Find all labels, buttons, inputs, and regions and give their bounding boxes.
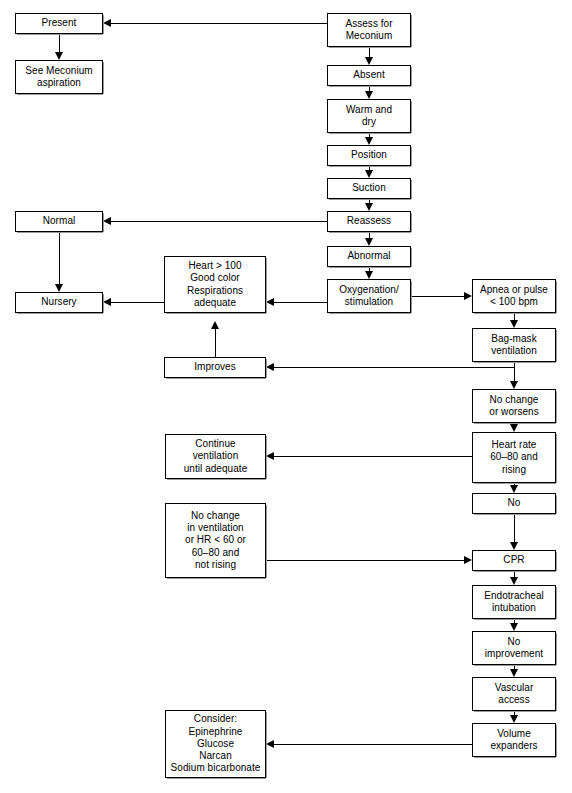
arrowhead-cpr-from-no-change: [464, 556, 472, 564]
node-no-change-or-worsens-label: No change or worsens: [489, 394, 538, 418]
node-no-improvement-label: No improvement: [485, 636, 543, 660]
edge-present-to-see-meconium: [59, 34, 60, 52]
node-no-improvement[interactable]: No improvement: [472, 631, 556, 665]
arrowhead-oxygenation: [365, 271, 373, 279]
node-apnea-or-pulse-label: Apnea or pulse < 100 bpm: [480, 284, 548, 308]
node-abnormal[interactable]: Abnormal: [327, 246, 411, 267]
node-vascular-access[interactable]: Vascular access: [472, 677, 556, 711]
node-consider-meds-label: Consider: Epinephrine Glucose Narcan Sod…: [171, 713, 261, 774]
node-no-change-or-worsens[interactable]: No change or worsens: [472, 389, 556, 423]
arrowhead-no-improvement: [510, 623, 518, 631]
node-reassess-label: Reassess: [347, 215, 391, 227]
node-volume-expanders[interactable]: Volume expanders: [472, 723, 556, 757]
node-absent-label: Absent: [353, 69, 384, 81]
node-no-change-in-ventilation-label: No change in ventilation or HR < 60 or 6…: [185, 510, 246, 571]
node-oxygenation-stimulation-label: Oxygenation/ stimulation: [339, 284, 399, 308]
arrowhead-continue-ventilation: [266, 452, 274, 460]
node-heart-good-color-label: Heart > 100 Good color Respirations adeq…: [187, 260, 243, 309]
node-present[interactable]: Present: [15, 13, 103, 34]
node-warm-and-dry[interactable]: Warm and dry: [327, 99, 411, 133]
node-heart-good-color[interactable]: Heart > 100 Good color Respirations adeq…: [164, 256, 266, 313]
edge-bag-mask-down: [514, 362, 515, 381]
arrowhead-bag-mask: [510, 320, 518, 328]
node-see-meconium-aspiration[interactable]: See Meconium aspiration: [15, 60, 103, 94]
node-present-label: Present: [42, 17, 77, 29]
edge-volume-expanders-to-consider: [274, 744, 472, 745]
arrowhead-suction: [365, 170, 373, 178]
node-heart-rate-60-80-label: Heart rate 60–80 and rising: [490, 439, 538, 476]
node-absent[interactable]: Absent: [327, 65, 411, 86]
arrowhead-heart-good-color: [266, 298, 274, 306]
node-bag-mask-ventilation[interactable]: Bag-mask ventilation: [472, 328, 556, 362]
arrowhead-consider-meds: [266, 740, 274, 748]
arrowhead-cpr-from-no: [510, 542, 518, 550]
node-apnea-or-pulse[interactable]: Apnea or pulse < 100 bpm: [472, 279, 556, 313]
arrowhead-normal: [103, 217, 111, 225]
edge-bag-mask-to-improves: [274, 367, 514, 368]
node-abnormal-label: Abnormal: [347, 250, 390, 262]
arrowhead-nursery-from-heart-good: [103, 298, 111, 306]
arrowhead-see-meconium: [55, 52, 63, 60]
edge-no-to-cpr: [514, 514, 515, 542]
node-normal-label: Normal: [43, 215, 76, 227]
arrowhead-volume-expanders: [510, 715, 518, 723]
node-nursery[interactable]: Nursery: [15, 292, 103, 313]
node-assess-for-meconium[interactable]: Assess for Meconium: [327, 13, 411, 47]
arrowhead-heart-rate: [510, 424, 518, 432]
node-no-change-in-ventilation[interactable]: No change in ventilation or HR < 60 or 6…: [165, 503, 266, 578]
node-endotracheal-intubation-label: Endotracheal intubation: [484, 590, 544, 614]
node-improves-label: Improves: [194, 361, 236, 373]
node-oxygenation-stimulation[interactable]: Oxygenation/ stimulation: [327, 279, 411, 313]
arrowhead-vascular-access: [510, 669, 518, 677]
edge-no-change-ventilation-to-cpr: [266, 560, 464, 561]
flowchart-canvas: Present See Meconium aspiration Assess f…: [0, 0, 572, 793]
node-cpr-label: CPR: [503, 554, 524, 566]
arrowhead-endotracheal: [510, 577, 518, 585]
node-cpr[interactable]: CPR: [472, 550, 556, 571]
node-suction[interactable]: Suction: [327, 178, 411, 199]
node-bag-mask-ventilation-label: Bag-mask ventilation: [491, 333, 537, 357]
node-warm-and-dry-label: Warm and dry: [346, 104, 392, 128]
arrowhead-absent: [365, 57, 373, 65]
edge-oxygenation-to-heart-good: [274, 302, 327, 303]
node-no[interactable]: No: [472, 493, 556, 514]
arrowhead-abnormal: [365, 238, 373, 246]
edge-assess-to-present: [111, 23, 327, 24]
edge-reassess-to-normal: [111, 221, 327, 222]
node-nursery-label: Nursery: [41, 296, 76, 308]
arrowhead-no: [510, 485, 518, 493]
node-position-label: Position: [351, 149, 387, 161]
node-continue-ventilation-label: Continue ventilation until adequate: [184, 438, 248, 475]
arrowhead-warm-dry: [365, 91, 373, 99]
edge-improves-to-heart-good: [215, 329, 216, 357]
node-reassess[interactable]: Reassess: [327, 211, 411, 232]
edge-oxygenation-to-apnea: [411, 296, 464, 297]
arrowhead-nursery-from-normal: [55, 284, 63, 292]
node-endotracheal-intubation[interactable]: Endotracheal intubation: [472, 585, 556, 619]
node-position[interactable]: Position: [327, 145, 411, 166]
edge-normal-to-nursery: [59, 232, 60, 284]
node-vascular-access-label: Vascular access: [495, 682, 534, 706]
node-suction-label: Suction: [352, 182, 386, 194]
arrowhead-reassess: [365, 203, 373, 211]
node-assess-for-meconium-label: Assess for Meconium: [345, 18, 392, 42]
arrowhead-present: [103, 19, 111, 27]
edge-heart-good-to-nursery: [111, 302, 164, 303]
node-no-label: No: [508, 497, 521, 509]
edge-heart-rate-to-continue-ventilation: [274, 456, 472, 457]
node-volume-expanders-label: Volume expanders: [490, 728, 537, 752]
arrowhead-position: [365, 137, 373, 145]
node-continue-ventilation[interactable]: Continue ventilation until adequate: [165, 434, 266, 479]
arrowhead-improves: [266, 363, 274, 371]
arrowhead-apnea: [464, 292, 472, 300]
arrowhead-heart-good-from-improves: [211, 321, 219, 329]
arrowhead-no-change-or-worsens: [510, 381, 518, 389]
node-consider-meds[interactable]: Consider: Epinephrine Glucose Narcan Sod…: [165, 710, 266, 778]
node-heart-rate-60-80[interactable]: Heart rate 60–80 and rising: [472, 432, 556, 483]
edge-apnea-to-bag-mask: [514, 313, 515, 320]
node-see-meconium-aspiration-label: See Meconium aspiration: [25, 65, 92, 89]
node-normal[interactable]: Normal: [15, 211, 103, 232]
node-improves[interactable]: Improves: [164, 357, 266, 378]
